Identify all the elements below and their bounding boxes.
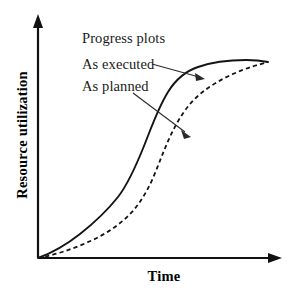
leader-line-as-planned [133,93,185,132]
progress-plots-figure: Progress plots As executed As planned Re… [0,0,300,296]
chart-annotation-as-planned: As planned [82,79,149,94]
leader-arrowhead-as-planned-icon [181,130,191,139]
x-axis-arrowhead-icon [268,253,282,263]
curve-as-planned [38,62,268,258]
curve-as-executed [38,60,268,258]
x-axis-label: Time [0,268,300,285]
chart-annotation-title: Progress plots [82,31,165,46]
y-axis-arrowhead-icon [33,14,43,28]
chart-annotation-as-executed: As executed [82,57,154,72]
leader-arrowhead-as-executed-icon [195,73,205,81]
y-axis-label: Resource utilization [14,35,32,235]
